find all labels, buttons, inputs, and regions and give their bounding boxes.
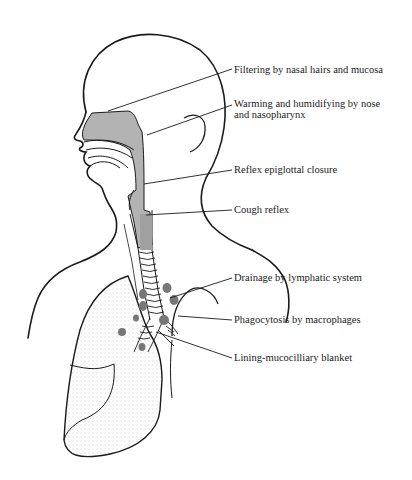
respiratory-defense-diagram: Filtering by nasal hairs and mucosa Warm… — [0, 0, 412, 480]
label-phagocytosis: Phagocytosis by macrophages — [234, 314, 361, 325]
label-lining: Lining-mucocilliary blanket — [234, 352, 352, 363]
label-filtering: Filtering by nasal hairs and mucosa — [234, 64, 383, 75]
left-lung — [64, 276, 162, 457]
label-drainage: Drainage by lymphatic system — [234, 272, 362, 283]
label-cough: Cough reflex — [234, 204, 289, 215]
label-warming-line2: and nasopharynx — [234, 109, 305, 120]
oral-cavity-lines — [84, 140, 134, 210]
label-warming-line1: Warming and humidifying by nose — [234, 98, 380, 109]
label-epiglottal: Reflex epiglottal closure — [234, 164, 337, 175]
